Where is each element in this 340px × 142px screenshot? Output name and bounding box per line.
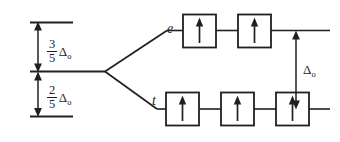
upper-gap-denominator: 5 (47, 51, 57, 65)
lower-gap-measure-arrow (34, 72, 42, 118)
lower-gap-numerator: 2 (47, 84, 57, 97)
upper-gap-delta-subscript: o (67, 51, 71, 61)
lower-gap-fraction: 2 5 (47, 84, 57, 111)
split-line-to-e (105, 31, 167, 72)
upper-gap-measure-arrow (34, 22, 42, 73)
e-orbital-box-1 (183, 15, 216, 48)
total-splitting-label: Δo (303, 63, 316, 76)
upper-gap-delta-symbol: Δ (59, 44, 67, 59)
crystal-field-splitting-diagram: 3 5 Δo 2 5 Δo e t Δo (0, 0, 340, 142)
t-orbital-box-2 (221, 93, 254, 126)
lower-gap-delta: Δo (59, 91, 72, 104)
split-line-to-t (105, 72, 157, 110)
t-orbital-box-3 (276, 93, 309, 126)
lower-gap-delta-subscript: o (67, 97, 71, 107)
e-orbital-box-2 (238, 15, 271, 48)
total-splitting-delta-subscript: o (311, 69, 315, 79)
upper-gap-numerator: 3 (47, 38, 57, 51)
lower-gap-delta-symbol: Δ (59, 90, 67, 105)
t-level-label: t (152, 94, 156, 108)
upper-gap-delta: Δo (59, 45, 72, 58)
lower-gap-label: 2 5 Δo (47, 84, 71, 111)
upper-gap-fraction: 3 5 (47, 38, 57, 65)
t-orbital-box-1 (166, 93, 199, 126)
lower-gap-denominator: 5 (47, 97, 57, 111)
e-level-label: e (167, 22, 173, 36)
upper-gap-label: 3 5 Δo (47, 38, 71, 65)
